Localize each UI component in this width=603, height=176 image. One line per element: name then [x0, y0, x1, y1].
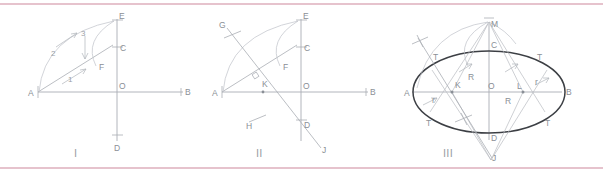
panel-1-step-2: 2: [51, 49, 56, 58]
panel-1-arrow-2-shaft: [56, 33, 77, 47]
panel-3-label-r-right: r: [535, 77, 538, 87]
panel-3-line-j-nw: [432, 70, 491, 160]
panel-3-label-K: K: [455, 80, 461, 90]
panel-1-label-O: O: [119, 81, 126, 91]
diagram-canvas: A B C D E F O 1 2 3 I: [0, 0, 603, 176]
panel-1-arrow-1-shaft: [62, 69, 86, 84]
panel-3-label-C: C: [491, 40, 497, 50]
panel-3-group: A B C D J K L M O R R r r T T T T III: [404, 18, 572, 163]
panel-1-step-1: 1: [68, 75, 73, 84]
panel-2-label-H: H: [246, 121, 252, 131]
panel-1-group: A B C D E F O 1 2 3 I: [28, 11, 191, 159]
panel-1-step-3: 3: [81, 29, 86, 38]
panel-2-cross-g-1: [224, 31, 241, 38]
panel-3-label-R-left: R: [468, 72, 474, 82]
panel-1-numeral: I: [74, 147, 77, 159]
panel-2-label-O: O: [303, 81, 310, 91]
panel-3-numeral: III: [443, 147, 453, 159]
panel-3-label-r-left: r: [432, 95, 435, 105]
panel-2-point-k: [262, 91, 265, 94]
panel-2-label-A: A: [212, 88, 218, 98]
panel-3-label-A: A: [404, 88, 410, 98]
panel-2-label-C: C: [304, 43, 310, 53]
panel-2-group: A B C D E F G H J K O II: [212, 11, 376, 159]
panel-3-label-D: D: [491, 133, 497, 143]
panel-3-label-L: L: [517, 81, 522, 91]
panel-2-label-G: G: [219, 20, 226, 30]
panel-2-right-angle-marker: [252, 72, 259, 79]
panel-2-label-K: K: [262, 79, 268, 89]
panel-3-arrow-R-right: [505, 64, 518, 72]
panel-1-label-A: A: [28, 88, 34, 98]
panel-1-label-D: D: [114, 143, 120, 153]
panel-3-label-T-upper-left: T: [433, 52, 438, 62]
panel-3-line-m-sw: [430, 22, 489, 112]
panel-2-arc-inner: [276, 21, 298, 66]
diagram-sheet: A B C D E F O 1 2 3 I: [0, 0, 603, 176]
panel-3-label-M: M: [491, 19, 498, 29]
panel-3-label-T-lower-right: T: [545, 118, 550, 128]
panel-3-line-bisector: [418, 38, 492, 158]
panel-3-label-T-lower-left: T: [426, 118, 431, 128]
panel-3-line-m-se: [489, 22, 545, 112]
panel-2-label-E: E: [303, 11, 309, 21]
panel-3-label-O: O: [488, 81, 495, 91]
panel-2-label-J: J: [322, 145, 326, 155]
panel-1-label-C: C: [120, 43, 126, 53]
panel-3-label-R-right: R: [505, 96, 511, 106]
panel-3-point-k: [451, 91, 454, 94]
panel-1-label-F: F: [99, 62, 104, 72]
panel-1-label-B: B: [185, 87, 191, 97]
panel-3-label-B: B: [566, 87, 572, 97]
panel-3-point-l: [522, 91, 525, 94]
panel-3-label-J: J: [492, 153, 496, 163]
panel-2-label-D: D: [304, 120, 310, 130]
panel-1-arc-3: [92, 21, 114, 66]
panel-1-label-E: E: [119, 11, 125, 21]
panel-2-label-B: B: [370, 87, 376, 97]
panel-3-label-T-upper-right: T: [537, 52, 542, 62]
panel-2-label-F: F: [283, 62, 288, 72]
panel-2-arc-outer: [223, 21, 298, 92]
panel-2-numeral: II: [256, 147, 263, 159]
